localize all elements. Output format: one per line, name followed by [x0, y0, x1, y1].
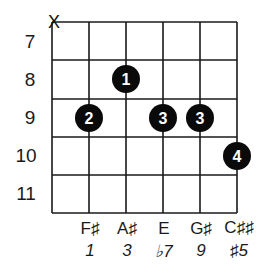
interval-label-string-2: 1 [85, 241, 94, 261]
svg-text:2: 2 [85, 110, 94, 127]
note-label-string-4: E [158, 219, 169, 239]
interval-label-string-3: 3 [122, 241, 131, 261]
finger-dot-2: 2 [75, 104, 103, 132]
fret-number-10: 10 [11, 145, 41, 167]
note-label-string-6: C♯♯ [224, 218, 253, 238]
interval-label-string-6: ♯5 [230, 241, 248, 261]
finger-dot-3b: 3 [186, 104, 214, 132]
finger-dot-3a: 3 [149, 104, 177, 132]
svg-text:1: 1 [122, 71, 131, 88]
svg-text:3: 3 [196, 110, 205, 127]
muted-string-marker: X [48, 13, 60, 31]
note-label-string-5: G♯ [190, 219, 212, 239]
fret-number-8: 8 [15, 69, 45, 91]
note-label-string-2: F♯ [81, 219, 100, 239]
interval-label-string-5: 9 [196, 241, 205, 261]
fret-number-9: 9 [15, 107, 45, 129]
finger-dot-4: 4 [223, 142, 251, 170]
fret-number-7: 7 [15, 31, 45, 53]
svg-text:4: 4 [233, 148, 242, 165]
fret-number-11: 11 [11, 183, 41, 205]
interval-label-string-4: ♭7 [155, 241, 172, 262]
chord-diagram: 1 2 3 3 4 X 7 8 9 10 11 F♯ A♯ E G♯ C♯♯ 1… [0, 0, 268, 276]
note-label-string-3: A♯ [117, 219, 137, 239]
svg-text:3: 3 [159, 110, 168, 127]
finger-dot-1: 1 [112, 65, 140, 93]
